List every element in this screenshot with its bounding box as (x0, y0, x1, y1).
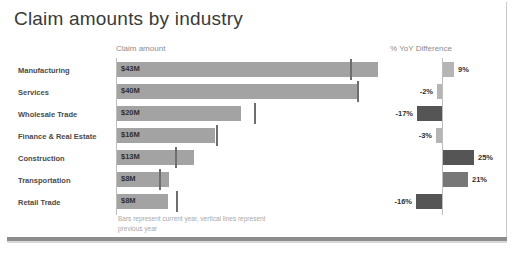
claim-amount-value-label: $8M (121, 196, 136, 205)
yoy-difference-value-label: 21% (472, 172, 487, 187)
yoy-difference-bar (443, 62, 454, 77)
previous-year-marker (357, 81, 359, 102)
yoy-difference-value-label: -3% (419, 128, 432, 143)
yoy-difference-bar (416, 194, 442, 209)
yoy-difference-bar (437, 84, 442, 99)
category-label: Retail Trade (18, 198, 61, 208)
category-label: Construction (18, 154, 65, 164)
right-zero-axis-line (442, 58, 443, 215)
claim-amount-value-label: $13M (121, 152, 140, 161)
yoy-difference-bar (443, 150, 474, 165)
claim-amount-bar: $16M (117, 128, 215, 143)
left-panel-header: Claim amount (116, 44, 165, 53)
category-label: Transportation (18, 176, 71, 186)
claim-amount-value-label: $43M (121, 64, 140, 73)
claim-amount-value-label: $8M (121, 174, 136, 183)
yoy-difference-value-label: -2% (420, 84, 433, 99)
claim-amount-bar: $20M (117, 106, 241, 121)
page-title: Claim amounts by industry (14, 8, 243, 30)
category-label: Services (18, 88, 49, 98)
category-label: Finance & Real Estate (18, 132, 96, 142)
claim-amount-bar: $13M (117, 150, 194, 165)
claim-amount-value-label: $20M (121, 108, 140, 117)
yoy-difference-value-label: -16% (394, 194, 412, 209)
previous-year-marker (159, 169, 161, 190)
yoy-difference-bar (443, 172, 468, 187)
previous-year-marker (175, 147, 177, 168)
claim-amount-value-label: $16M (121, 130, 140, 139)
category-label: Manufacturing (18, 66, 70, 76)
footnote: Bars represent current year, vertical li… (118, 214, 268, 234)
claim-amount-bar: $40M (117, 84, 359, 99)
card-bottom-border-shadow (7, 241, 507, 243)
claim-amount-bar: $8M (117, 172, 169, 187)
previous-year-marker (254, 103, 256, 124)
yoy-difference-bar (417, 106, 442, 121)
card-right-border (506, 2, 507, 240)
yoy-difference-value-label: 9% (458, 62, 469, 77)
yoy-difference-value-label: -17% (395, 106, 413, 121)
claim-amount-bar: $43M (117, 62, 378, 77)
chart-card: Claim amounts by industry Claim amount %… (0, 0, 519, 260)
previous-year-marker (350, 59, 352, 80)
right-panel-header: % YoY Difference (390, 44, 452, 53)
claim-amount-value-label: $40M (121, 86, 140, 95)
previous-year-marker (176, 191, 178, 212)
claim-amount-bar: $8M (117, 194, 168, 209)
yoy-difference-bar (436, 128, 442, 143)
previous-year-marker (216, 125, 218, 146)
footnote-line-1: Bars represent current year, vertical li… (118, 215, 236, 222)
category-label: Wholesale Trade (18, 110, 77, 120)
yoy-difference-value-label: 25% (478, 150, 493, 165)
